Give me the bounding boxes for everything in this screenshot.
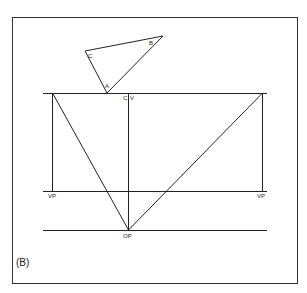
figure-caption: (B) [16, 257, 29, 268]
label-center-c: C [123, 95, 128, 101]
label-vp-left: VP [48, 193, 56, 199]
perspective-diagram: C B A C V VP VP OP (B) [0, 0, 307, 293]
label-triangle-a: A [105, 83, 109, 89]
label-center-v: V [130, 95, 134, 101]
right-sight-line [129, 93, 263, 230]
label-triangle-b: B [149, 40, 153, 46]
left-sight-line [53, 93, 129, 230]
label-triangle-c: C [88, 53, 93, 59]
label-op: OP [123, 233, 132, 239]
figure-frame [13, 18, 298, 284]
label-vp-right: VP [257, 193, 265, 199]
